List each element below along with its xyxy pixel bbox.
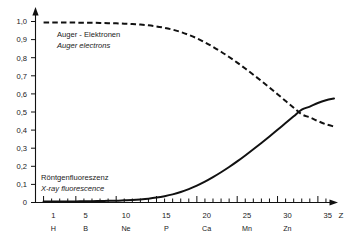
x-tick-label-group: 1 5 10 15 20 25 30 35: [51, 211, 332, 220]
y-tick-label-0-2: 0,2: [16, 162, 27, 171]
auger-label-de: Auger - Elektronen: [57, 30, 120, 39]
x-tick-label-5: 5: [83, 211, 87, 220]
x-tick-label-10: 10: [122, 211, 130, 220]
y-tick-label-0-5: 0,5: [16, 108, 27, 117]
x-axis-symbol-label: Z: [339, 211, 344, 220]
x-element-label-b: B: [83, 224, 88, 233]
x-tick-label-15: 15: [162, 211, 170, 220]
chart-figure: 0 0,1 0,2 0,3 0,4 0,5 0,6 0,7 0,8 0,9 1,…: [0, 0, 349, 241]
chart-plot-area: 0 0,1 0,2 0,3 0,4 0,5 0,6 0,7 0,8 0,9 1,…: [0, 0, 349, 241]
y-tick-label-0-9: 0,9: [16, 35, 27, 44]
y-tick-label-0-4: 0,4: [16, 126, 27, 135]
x-element-label-h: H: [51, 224, 56, 233]
y-tick-label-0-6: 0,6: [16, 90, 27, 99]
y-tick-label-group: 0 0,1 0,2 0,3 0,4 0,5 0,6 0,7 0,8 0,9 1,…: [16, 17, 27, 207]
x-element-label-group: H B Ne P Ca Mn Zn: [51, 224, 292, 233]
auger-annotation: Auger - Elektronen Auger electrons: [56, 30, 120, 50]
x-tick-label-35: 35: [324, 211, 332, 220]
x-tick-label-20: 20: [202, 211, 210, 220]
fluorescence-label-en: X-ray fluorescence: [40, 184, 104, 193]
y-tick-group: [31, 22, 36, 203]
x-element-label-ne: Ne: [121, 224, 130, 233]
x-tick-label-25: 25: [243, 211, 251, 220]
y-axis-arrowhead: [32, 7, 38, 16]
x-element-label-p: P: [164, 224, 169, 233]
y-tick-label-0-8: 0,8: [16, 54, 27, 63]
y-tick-label-0-1: 0,1: [16, 180, 27, 189]
x-axis-arrowhead: [330, 199, 339, 205]
fluorescence-label-de: Röntgenfluoreszenz: [41, 173, 109, 182]
y-tick-label-0-7: 0,7: [16, 72, 27, 81]
x-tick-label-30: 30: [283, 211, 291, 220]
x-element-label-ca: Ca: [202, 224, 211, 233]
y-tick-label-0-3: 0,3: [16, 144, 27, 153]
x-element-label-mn: Mn: [242, 224, 252, 233]
auger-label-en: Auger electrons: [56, 41, 110, 50]
fluorescence-annotation: Röntgenfluoreszenz X-ray fluorescence: [40, 173, 109, 193]
x-element-label-zn: Zn: [283, 224, 291, 233]
y-tick-label-1-0: 1,0: [16, 17, 27, 26]
y-tick-label-0: 0: [23, 198, 27, 207]
x-tick-label-1: 1: [51, 211, 55, 220]
